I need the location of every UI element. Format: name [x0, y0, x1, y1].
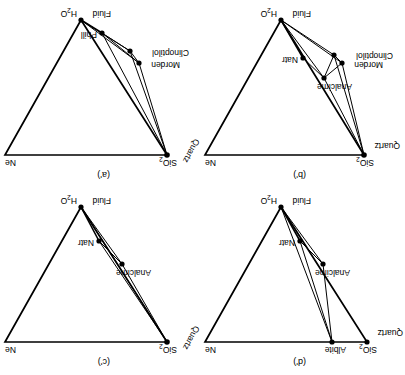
- panel-tag-a: (a'): [97, 170, 110, 180]
- tie-line-analcime-natr: [303, 58, 324, 78]
- tie-line-analcime-morden: [324, 63, 342, 78]
- ternary-plot-b: [203, 1, 405, 188]
- apex-label-fluid-c: Fluid: [93, 196, 111, 205]
- tie-line-analcime-natr: [99, 241, 122, 264]
- point-label-phill-a: Phill: [81, 30, 97, 39]
- point-label-albite-d: Albite: [325, 345, 346, 354]
- point-label-analcime-c: Analcime: [116, 268, 151, 277]
- point-clinoptilol: [127, 48, 132, 53]
- point-label-clinoptilol-a: Clinoptilol: [152, 48, 189, 57]
- point-albite: [329, 339, 334, 344]
- apex-label-h2o-b: H2O: [261, 6, 277, 18]
- panel-a: (a') SiO2 Quartz Ne Morden Clinoptilol P…: [1, 1, 203, 188]
- apex-label-sio2-c: SiO2: [159, 342, 177, 354]
- vertex-fluid: [78, 17, 83, 22]
- apex-label-quartz-d: Quartz: [377, 328, 403, 337]
- vertex-fluid: [278, 204, 283, 209]
- apex-label-ne-c: Ne: [5, 345, 16, 354]
- point-natr: [297, 238, 302, 243]
- panel-d: (d') SiO2 Quartz Ne Albite Analcime Natr…: [203, 188, 405, 375]
- apex-label-fluid-b: Fluid: [293, 9, 311, 18]
- point-label-natr-d: Natr: [279, 238, 295, 247]
- apex-label-ne-d: Ne: [205, 345, 216, 354]
- point-morden: [339, 60, 344, 65]
- tie-line-natr-fluid: [81, 207, 99, 241]
- point-analcime: [119, 261, 124, 266]
- panel-tag-b: (b'): [293, 170, 306, 180]
- tie-line-clinoptilol-fluid: [281, 20, 334, 55]
- apex-label-ne-a: Ne: [5, 158, 16, 167]
- figure-sheet: (d') SiO2 Quartz Ne Albite Analcime Natr…: [0, 0, 405, 375]
- panel-tag-d: (d'): [293, 357, 306, 367]
- point-label-natr-c: Natr: [78, 238, 94, 247]
- tie-line-analcime-fluid: [281, 207, 323, 264]
- tie-line-sio2-natr: [99, 241, 167, 342]
- panel-c: (c') SiO2 Quartz Ne Analcime Natr Fluid …: [1, 188, 203, 375]
- tie-line-sio2-morden: [342, 63, 364, 155]
- tie-line-albite-natr: [300, 241, 332, 342]
- point-label-analcime-b: Analcime: [317, 82, 352, 91]
- point-phill: [99, 30, 104, 35]
- panel-b: (b') SiO2 Quartz Ne Analcime Morden Clin…: [203, 1, 405, 188]
- panel-tag-c: (c'): [98, 357, 110, 367]
- tie-line-natr-fluid: [281, 207, 300, 241]
- apex-label-quartz-b: Quartz: [374, 141, 400, 150]
- vertex-fluid: [78, 204, 83, 209]
- point-label-morden-b: Morden: [354, 60, 383, 69]
- apex-label-h2o-d: H2O: [261, 193, 277, 205]
- apex-label-h2o-c: H2O: [61, 193, 77, 205]
- point-analcime: [321, 75, 326, 80]
- apex-label-ne-b: Ne: [205, 158, 216, 167]
- tie-line-analcime-fluid: [81, 207, 122, 264]
- point-natr: [96, 238, 101, 243]
- point-natr: [300, 55, 305, 60]
- tie-line-analcime-fluid: [281, 20, 324, 78]
- apex-label-sio2-b: SiO2: [356, 155, 374, 167]
- point-label-analcime-d: Analcime: [315, 268, 350, 277]
- point-analcime: [320, 261, 325, 266]
- tie-line-natr-fluid: [281, 20, 303, 58]
- tie-line-analcime-clinoptilol: [324, 55, 334, 78]
- point-label-natr-b: Natr: [282, 55, 298, 64]
- apex-label-h2o-a: H2O: [61, 6, 77, 18]
- point-label-clinoptilol-b: Clinoptilol: [356, 51, 393, 60]
- apex-label-fluid-a: Fluid: [93, 9, 111, 18]
- apex-label-fluid-d: Fluid: [293, 196, 311, 205]
- apex-label-sio2-d: SiO2: [359, 342, 377, 354]
- tie-line-morden-fluid: [81, 20, 139, 63]
- point-morden: [136, 60, 141, 65]
- tie-line-sio2-morden: [139, 63, 167, 155]
- apex-label-sio2-a: SiO2: [159, 155, 177, 167]
- vertex-fluid: [278, 17, 283, 22]
- point-clinoptilol: [331, 52, 336, 57]
- point-label-morden-a: Morden: [151, 60, 180, 69]
